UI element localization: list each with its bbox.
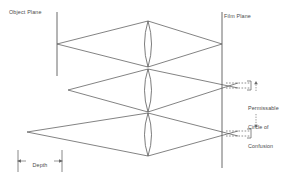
film-plane-label: Film Plane: [224, 13, 251, 19]
lens-middle: [145, 69, 152, 112]
ray-top-upper-refracted: [148, 21, 222, 44]
coc-label-line-1: Permissable: [248, 105, 279, 111]
lens-bottom: [145, 113, 152, 156]
coc-leader-up-arrowhead: [254, 81, 258, 84]
circle-of-confusion-label: Permissable Circle of Confusion: [248, 93, 279, 161]
ray-bot-lower-refracted: [148, 131, 238, 156]
coc-label-line-2: Circle of: [248, 124, 279, 130]
ray-bot-upper-refracted: [148, 113, 238, 136]
ray-bot-upper-incident: [27, 113, 148, 132]
ray-top-upper-incident: [57, 21, 148, 44]
lens-top: [145, 21, 152, 67]
ray-mid-upper-refracted: [148, 69, 238, 88]
ray-mid-lower-refracted: [148, 83, 238, 112]
coc-label-line-3: Confusion: [248, 143, 279, 149]
ray-mid-upper-incident: [68, 69, 148, 90]
dof-right-arrowhead: [59, 159, 63, 162]
coc-upper-bracket: [247, 81, 251, 90]
depth-of-field-label: Depth of Field: [27, 150, 53, 180]
optics-ray-diagram: Object Plane Film Plane Permissable Circ…: [0, 0, 300, 180]
object-plane-label: Object Plane: [9, 9, 42, 15]
dof-label-line-1: Depth: [27, 162, 53, 168]
ray-top-lower-refracted: [148, 44, 222, 67]
ray-top-lower-incident: [57, 44, 148, 67]
ray-mid-lower-incident: [68, 90, 148, 112]
